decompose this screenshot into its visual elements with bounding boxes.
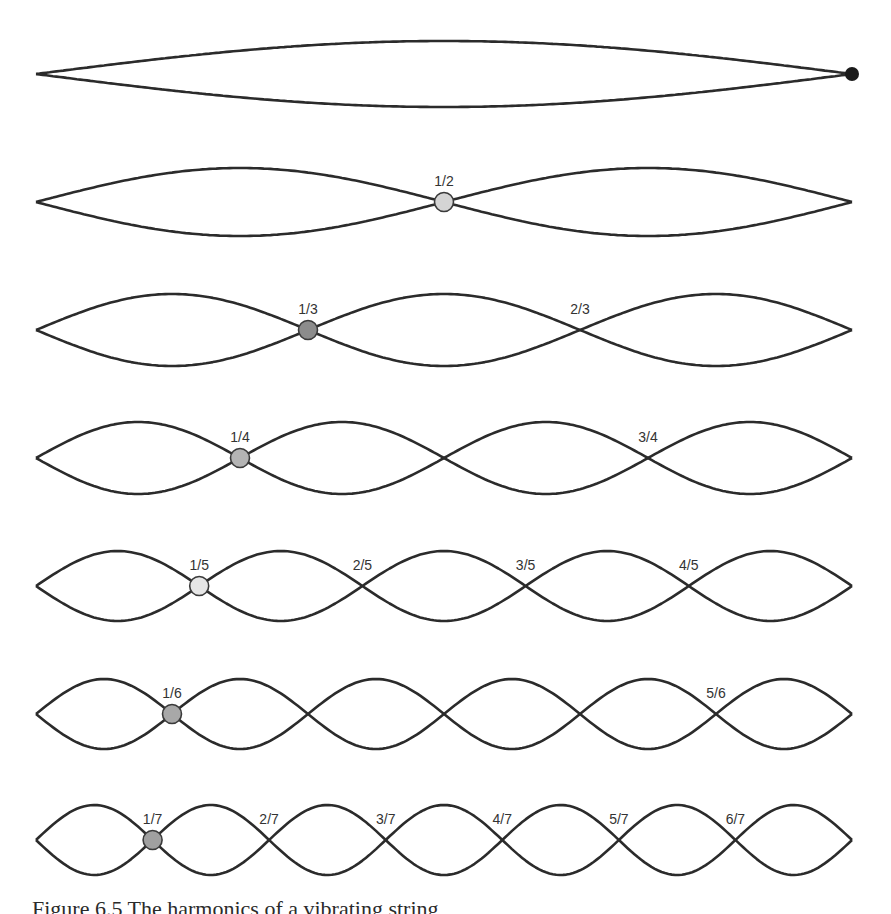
- highlighted-node-marker: [231, 449, 250, 468]
- harmonic-row-7: 1/72/73/74/75/76/7: [36, 805, 852, 875]
- node-label: 4/5: [679, 557, 699, 573]
- node-label: 2/7: [259, 811, 279, 827]
- harmonic-row-4: 1/43/4: [36, 422, 852, 494]
- node-label: 1/2: [434, 173, 454, 189]
- node-label: 4/7: [493, 811, 513, 827]
- lower-envelope: [36, 679, 852, 749]
- harmonic-row-5: 1/52/53/54/5: [36, 551, 852, 621]
- highlighted-node-marker: [143, 831, 162, 850]
- lower-envelope: [36, 422, 852, 494]
- harmonic-row-1: [36, 41, 859, 107]
- harmonic-row-3: 1/32/3: [36, 294, 852, 366]
- highlighted-node-marker: [435, 193, 454, 212]
- highlighted-node-marker: [163, 705, 182, 724]
- lower-envelope: [36, 294, 852, 366]
- node-label: 1/4: [230, 429, 250, 445]
- node-label: 3/5: [516, 557, 536, 573]
- node-label: 1/5: [189, 557, 209, 573]
- string-end-dot: [845, 67, 859, 81]
- figure-caption-container: Figure 6.5 The harmonics of a vibrating …: [32, 898, 891, 914]
- lower-envelope: [36, 74, 852, 107]
- node-label: 2/5: [353, 557, 373, 573]
- harmonics-diagram: 1/21/32/31/43/41/52/53/54/51/65/61/72/73…: [0, 0, 891, 914]
- node-label: 5/7: [609, 811, 629, 827]
- node-label: 5/6: [706, 685, 726, 701]
- node-label: 2/3: [570, 301, 590, 317]
- node-label: 6/7: [726, 811, 746, 827]
- upper-envelope: [36, 41, 852, 74]
- figure-caption: Figure 6.5 The harmonics of a vibrating …: [32, 898, 891, 914]
- upper-envelope: [36, 294, 852, 366]
- node-label: 1/6: [162, 685, 182, 701]
- harmonic-row-2: 1/2: [36, 168, 852, 236]
- highlighted-node-marker: [299, 321, 318, 340]
- node-label: 3/4: [638, 429, 658, 445]
- highlighted-node-marker: [190, 577, 209, 596]
- node-label: 3/7: [376, 811, 396, 827]
- node-label: 1/7: [143, 811, 163, 827]
- node-label: 1/3: [298, 301, 318, 317]
- harmonic-row-6: 1/65/6: [36, 679, 852, 749]
